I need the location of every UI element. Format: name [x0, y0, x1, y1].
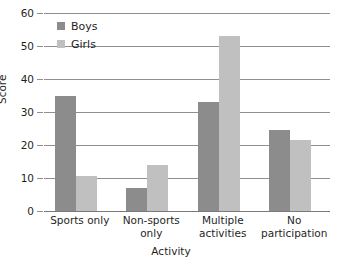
y-axis-tick-label: 60: [21, 8, 34, 19]
y-axis-tick: [37, 211, 43, 212]
y-axis-tick: [37, 145, 43, 146]
bar-boys: [269, 130, 290, 211]
category-label-line: participation: [251, 227, 339, 240]
y-axis-tick-label: 10: [21, 173, 34, 184]
bar-chart: 0102030405060 Score Sports onlyNon-sport…: [0, 0, 342, 266]
y-axis-tick-label: 40: [21, 74, 34, 85]
x-axis-category-label: Noparticipation: [251, 214, 339, 240]
bar-boys: [198, 102, 219, 211]
y-axis-tick: [37, 79, 43, 80]
y-axis-tick-label: 20: [21, 140, 34, 151]
gridline: [44, 79, 330, 80]
y-axis-tick: [37, 112, 43, 113]
legend-label: Girls: [71, 39, 96, 50]
legend: BoysGirls: [57, 17, 127, 53]
bar-girls: [219, 36, 240, 211]
bar-boys: [55, 96, 76, 212]
y-axis-tick: [37, 13, 43, 14]
legend-item: Boys: [57, 17, 127, 35]
gridline: [44, 211, 330, 212]
y-axis-tick-label: 0: [27, 206, 34, 217]
y-axis-tick: [37, 46, 43, 47]
bar-boys: [126, 188, 147, 211]
x-axis-title: Activity: [0, 245, 342, 257]
bar-girls: [76, 176, 97, 211]
legend-swatch-girls: [57, 40, 65, 48]
gridline: [44, 112, 330, 113]
y-axis-tick-label: 30: [21, 107, 34, 118]
category-label-line: No: [251, 214, 339, 227]
gridline: [44, 13, 330, 14]
legend-item: Girls: [57, 35, 127, 53]
y-axis-title: Score: [0, 75, 8, 104]
legend-label: Boys: [71, 21, 98, 32]
y-axis-tick: [37, 178, 43, 179]
y-axis-tick-labels: 0102030405060: [0, 13, 36, 211]
bar-girls: [290, 140, 311, 211]
legend-swatch-boys: [57, 22, 65, 30]
bar-girls: [147, 165, 168, 211]
y-axis-tick-label: 50: [21, 41, 34, 52]
